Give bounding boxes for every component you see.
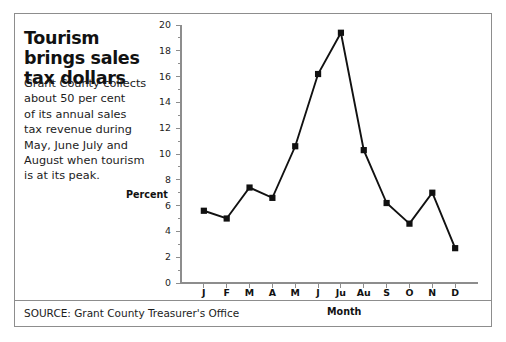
y-axis-tick-label: 4 (149, 225, 171, 236)
y-axis-tick-label: 18 (149, 45, 171, 56)
y-axis-tick-label: 14 (149, 96, 171, 107)
chart-series-markers (201, 30, 459, 252)
infographic-page: Tourism brings sales tax dollars Grant C… (0, 0, 506, 342)
x-axis-title: Month (327, 306, 361, 317)
y-axis-title: Percent (126, 189, 168, 200)
series-marker (224, 215, 230, 221)
chart-series-line (204, 33, 455, 248)
series-line (204, 33, 455, 248)
y-axis-tick-label: 2 (149, 251, 171, 262)
series-marker (361, 147, 367, 153)
series-marker (429, 190, 435, 196)
y-axis-tick-label: 16 (149, 71, 171, 82)
y-axis-tick-label: 12 (149, 122, 171, 133)
series-marker (292, 143, 298, 149)
series-marker (269, 195, 275, 201)
y-axis-tick-label: 0 (149, 277, 171, 288)
y-axis-tick-label: 10 (149, 148, 171, 159)
series-marker (246, 184, 252, 190)
line-chart: Percent Month 02468101214161820 JFMAMJJu… (0, 0, 506, 342)
x-axis-tick-label: D (442, 287, 468, 298)
series-marker (201, 208, 207, 214)
y-axis-tick-label: 20 (149, 19, 171, 30)
series-marker (315, 71, 321, 77)
series-marker (452, 245, 458, 251)
series-marker (406, 221, 412, 227)
series-marker (384, 200, 390, 206)
y-axis-tick-label: 6 (149, 200, 171, 211)
series-marker (338, 30, 344, 36)
y-axis-tick-label: 8 (149, 174, 171, 185)
chart-axes (176, 25, 478, 288)
